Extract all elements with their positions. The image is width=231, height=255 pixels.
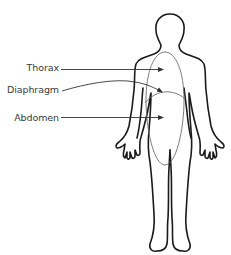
body-cavity-diagram: Thorax Diaphragm Abdomen (0, 0, 231, 255)
thorax-label: Thorax (27, 63, 59, 73)
abdomen-label: Abdomen (14, 113, 59, 123)
body-silhouette-outer (116, 14, 224, 251)
diaphragm-label: Diaphragm (7, 85, 59, 95)
body-illustration (0, 0, 231, 255)
cavity-oval (146, 52, 184, 165)
body-outline (116, 14, 224, 251)
